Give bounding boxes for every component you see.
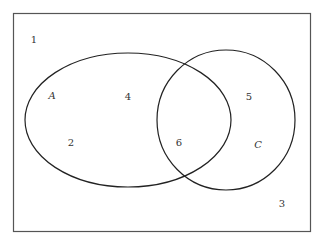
region-label-5: 5: [246, 92, 252, 102]
region-label-1: 1: [31, 35, 37, 45]
set-c-label: C: [254, 140, 262, 150]
region-label-2: 2: [68, 138, 74, 148]
set-c-circle: [157, 50, 295, 190]
region-label-4: 4: [125, 92, 131, 102]
region-label-6: 6: [176, 138, 182, 148]
set-a-ellipse: [25, 53, 231, 187]
region-label-3: 3: [279, 199, 285, 209]
venn-diagram: [0, 0, 318, 244]
set-a-label: A: [48, 91, 55, 101]
universe-rectangle: [14, 14, 311, 232]
